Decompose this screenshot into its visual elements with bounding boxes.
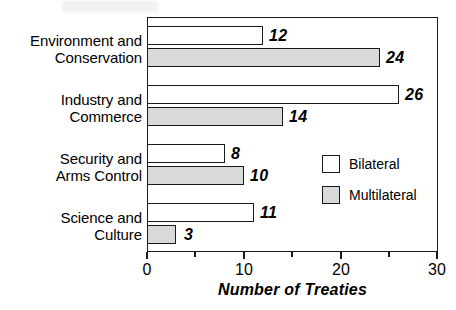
xtick-minor-5 <box>194 252 196 257</box>
legend-swatch-multilateral <box>322 186 340 204</box>
bar-science-multilateral <box>147 225 176 244</box>
category-label-security-and-arms-control: Security and Arms Control <box>0 150 142 184</box>
bar-value-security-multilateral: 10 <box>250 166 268 185</box>
bar-value-environment-multilateral: 24 <box>386 48 404 67</box>
bar-value-environment-bilateral: 12 <box>269 26 287 45</box>
bars-layer: 12 24 26 14 8 10 11 3 Bilateral Multilat… <box>147 17 438 252</box>
bar-value-industry-multilateral: 14 <box>289 107 307 126</box>
category-axis-labels: Environment and Conservation Industry an… <box>0 17 142 252</box>
legend-item-multilateral: Multilateral <box>322 183 417 207</box>
category-label-environment-and-conservation: Environment and Conservation <box>0 32 142 66</box>
xtick-label-10: 10 <box>224 261 264 279</box>
legend-label-multilateral: Multilateral <box>349 187 417 203</box>
xtick-30 <box>436 252 438 259</box>
bar-industry-multilateral <box>147 107 283 126</box>
scan-artifact <box>62 1 158 12</box>
x-axis-title: Number of Treaties <box>147 281 438 299</box>
xtick-label-0: 0 <box>127 261 167 279</box>
xtick-10 <box>243 252 245 259</box>
bar-science-bilateral <box>147 203 254 222</box>
bar-security-bilateral <box>147 144 225 163</box>
bar-value-security-bilateral: 8 <box>231 144 240 163</box>
xtick-label-20: 20 <box>321 261 361 279</box>
bar-value-science-multilateral: 3 <box>184 225 193 244</box>
bar-security-multilateral <box>147 166 244 185</box>
xtick-20 <box>340 252 342 259</box>
category-label-science-and-culture: Science and Culture <box>0 209 142 243</box>
xtick-minor-25 <box>388 252 390 257</box>
bar-chart: Environment and Conservation Industry an… <box>0 0 456 310</box>
bar-industry-bilateral <box>147 85 399 104</box>
bar-environment-bilateral <box>147 26 263 45</box>
xtick-label-30: 30 <box>417 261 456 279</box>
bar-value-science-bilateral: 11 <box>260 203 277 222</box>
bar-environment-multilateral <box>147 48 380 67</box>
legend-swatch-bilateral <box>322 155 340 173</box>
legend: Bilateral Multilateral <box>322 152 417 214</box>
category-label-industry-and-commerce: Industry and Commerce <box>0 91 142 125</box>
legend-item-bilateral: Bilateral <box>322 152 417 176</box>
xtick-minor-15 <box>291 252 293 257</box>
bar-value-industry-bilateral: 26 <box>405 85 423 104</box>
legend-label-bilateral: Bilateral <box>349 156 400 172</box>
xtick-0 <box>146 252 148 259</box>
